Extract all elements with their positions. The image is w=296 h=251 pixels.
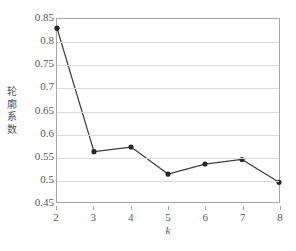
- x-axis-tick-mark: [56, 206, 57, 210]
- data-point: [54, 26, 59, 31]
- chart-figure: 轮 廓 系 数 0.850.80.750.70.650.60.550.50.45…: [0, 0, 296, 251]
- x-axis-tick-mark: [131, 206, 132, 210]
- x-axis-tick-label: 5: [155, 211, 181, 223]
- x-axis-tick-mark: [280, 206, 281, 210]
- data-point: [128, 145, 133, 150]
- y-axis-tick-label: 0.65: [20, 105, 54, 116]
- x-axis-tick-label: 7: [230, 211, 256, 223]
- y-axis-tick-label: 0.5: [20, 174, 54, 185]
- series-line-silhouette: [57, 28, 279, 182]
- x-axis-tick-mark: [243, 206, 244, 210]
- x-axis-tick-mark: [205, 206, 206, 210]
- x-axis-tick-label: 2: [43, 211, 69, 223]
- gridline-horizontal: [57, 65, 279, 66]
- y-axis-tick-label: 0.75: [20, 58, 54, 69]
- data-point: [202, 161, 207, 166]
- y-axis-tick-label: 0.8: [20, 35, 54, 46]
- x-axis-tick-label: 8: [267, 211, 293, 223]
- gridline-horizontal: [57, 135, 279, 136]
- gridline-horizontal: [57, 158, 279, 159]
- x-axis-tick-mark: [168, 206, 169, 210]
- gridline-horizontal: [57, 88, 279, 89]
- gridline-horizontal: [57, 181, 279, 182]
- y-axis-title: 轮 廓 系 数: [5, 86, 19, 136]
- y-axis-tick-label: 0.85: [20, 12, 54, 23]
- gridline-horizontal: [57, 112, 279, 113]
- data-point: [91, 149, 96, 154]
- x-axis-tick-label: 4: [118, 211, 144, 223]
- series-markers: [54, 26, 281, 185]
- x-axis-tick-label: 3: [80, 211, 106, 223]
- y-axis-tick-label: 0.7: [20, 81, 54, 92]
- x-axis-tick-labels: 2345678: [56, 206, 280, 222]
- x-axis-tick-mark: [93, 206, 94, 210]
- data-series-layer: [57, 19, 279, 202]
- x-axis-tick-label: 6: [192, 211, 218, 223]
- plot-area: [56, 18, 280, 203]
- data-point: [165, 172, 170, 177]
- gridline-horizontal: [57, 42, 279, 43]
- y-axis-tick-label: 0.6: [20, 128, 54, 139]
- x-axis-title: k: [56, 224, 280, 236]
- y-axis-tick-label: 0.45: [20, 197, 54, 208]
- y-axis-tick-label: 0.55: [20, 151, 54, 162]
